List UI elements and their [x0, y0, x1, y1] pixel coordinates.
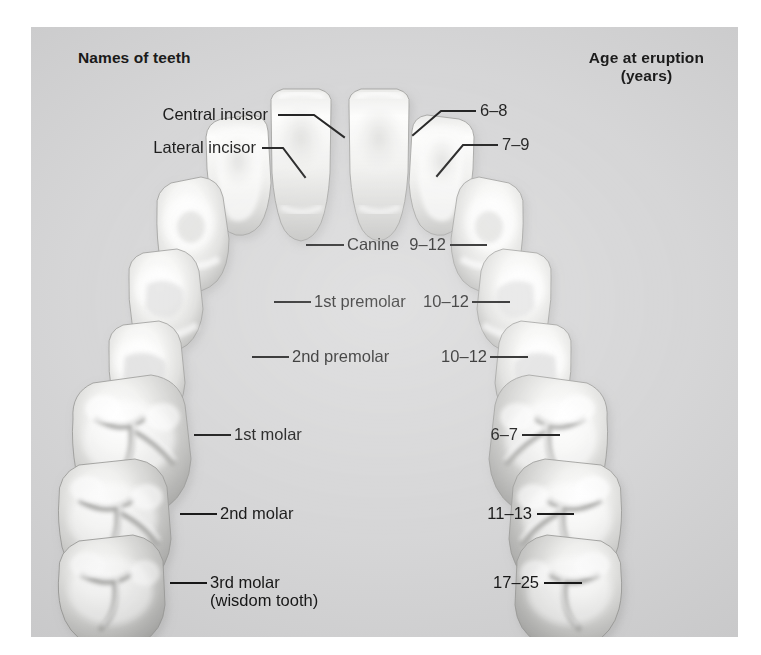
- label-molar-3: 3rd molar (wisdom tooth): [210, 573, 318, 610]
- label-molar-1: 1st molar: [234, 425, 302, 443]
- dental-arch-figure: Names of teeth Age at eruption (years) C…: [31, 27, 738, 637]
- page-title-ages-line2: (years): [589, 67, 704, 85]
- age-molar-2: 11–13: [487, 504, 532, 522]
- label-molar-3-line1: 3rd molar: [210, 573, 280, 591]
- label-premolar-1: 1st premolar: [314, 292, 406, 310]
- age-premolar-2: 10–12: [441, 347, 487, 365]
- tooth-molar3-left: [58, 535, 165, 637]
- label-premolar-2: 2nd premolar: [292, 347, 389, 365]
- age-molar-1: 6–7: [490, 425, 518, 443]
- age-molar-3: 17–25: [493, 573, 539, 591]
- label-central-incisor: Central incisor: [163, 105, 268, 123]
- label-molar-2: 2nd molar: [220, 504, 293, 522]
- age-premolar-1: 10–12: [423, 292, 469, 310]
- page-title-ages: Age at eruption (years): [589, 49, 704, 85]
- tooth-central-incisor-right: [349, 89, 410, 241]
- tooth-central-incisor-left: [271, 89, 332, 241]
- age-lateral-incisor: 7–9: [502, 135, 530, 153]
- dental-arch-illustration: [31, 27, 738, 637]
- label-molar-3-line2: (wisdom tooth): [210, 591, 318, 609]
- age-central-incisor: 6–8: [480, 101, 508, 119]
- label-lateral-incisor: Lateral incisor: [153, 138, 256, 156]
- page-title-ages-line1: Age at eruption: [589, 49, 704, 66]
- label-canine: Canine: [347, 235, 399, 253]
- age-canine: 9–12: [409, 235, 446, 253]
- page-title-names: Names of teeth: [78, 49, 191, 67]
